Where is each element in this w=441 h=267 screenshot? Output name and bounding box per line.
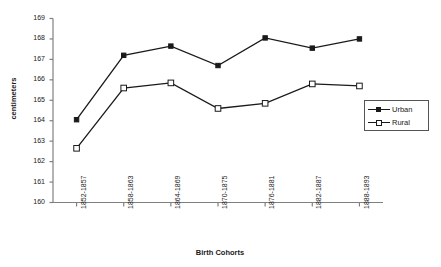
x-axis-tick-label: 1870-1875 xyxy=(221,175,229,208)
plot-area xyxy=(0,0,441,267)
data-point-urban-4[interactable] xyxy=(263,36,267,40)
data-point-rural-6[interactable] xyxy=(357,83,363,89)
chart-legend: Urban Rural xyxy=(364,100,429,131)
legend-marker-open-square-icon xyxy=(368,118,390,127)
x-axis-tick-label: 1858-1863 xyxy=(127,175,135,208)
x-axis-tick-label: 1876-1881 xyxy=(268,175,276,208)
data-point-rural-0[interactable] xyxy=(74,146,80,152)
x-axis-tick-label: 1882-1887 xyxy=(315,175,323,208)
data-point-rural-3[interactable] xyxy=(215,106,221,112)
x-axis-tick-label: 1864-1869 xyxy=(174,175,182,208)
legend-marker-filled-square-icon xyxy=(368,105,390,114)
x-axis-tick-label: 1852-1857 xyxy=(80,175,88,208)
data-point-urban-3[interactable] xyxy=(216,63,220,67)
data-point-urban-0[interactable] xyxy=(74,118,78,122)
x-axis-title: Birth Cohorts xyxy=(150,248,290,257)
data-point-urban-2[interactable] xyxy=(169,44,173,48)
legend-item-rural[interactable]: Rural xyxy=(368,116,428,129)
data-point-urban-5[interactable] xyxy=(310,46,314,50)
data-point-rural-5[interactable] xyxy=(309,81,315,87)
x-axis-tick-label: 1888-1893 xyxy=(363,175,371,208)
data-point-rural-2[interactable] xyxy=(168,80,174,86)
data-point-rural-1[interactable] xyxy=(121,85,127,91)
legend-label-rural: Rural xyxy=(392,118,410,127)
series-line-rural xyxy=(77,83,360,148)
legend-item-urban[interactable]: Urban xyxy=(368,103,428,116)
data-point-rural-4[interactable] xyxy=(262,101,268,107)
chart-container: centimeters 1601611621631641651661671681… xyxy=(0,0,441,267)
data-point-urban-1[interactable] xyxy=(122,53,126,57)
legend-label-urban: Urban xyxy=(392,105,412,114)
data-point-urban-6[interactable] xyxy=(357,37,361,41)
